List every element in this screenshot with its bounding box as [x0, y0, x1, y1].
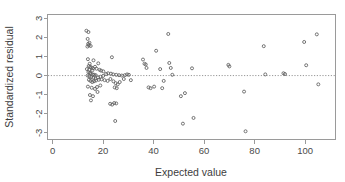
- data-point: [92, 59, 95, 62]
- data-point: [96, 86, 99, 89]
- y-tick-label: 2: [33, 35, 44, 40]
- data-point: [159, 68, 162, 71]
- y-tick-label: 0: [33, 73, 44, 78]
- data-point: [122, 78, 125, 81]
- y-axis-label: Standardized residual: [3, 26, 15, 128]
- x-tick-label: 80: [249, 145, 260, 156]
- data-point: [179, 95, 182, 98]
- data-point: [99, 84, 102, 87]
- data-point: [106, 79, 109, 82]
- data-point: [303, 40, 306, 43]
- data-point: [118, 81, 121, 84]
- data-point: [145, 66, 148, 69]
- x-tick-label: 100: [297, 145, 313, 156]
- data-point: [162, 79, 165, 82]
- data-point: [96, 90, 99, 93]
- x-axis: 020406080100: [50, 140, 313, 156]
- data-point: [129, 79, 132, 82]
- residual-plot-figure: 020406080100 -3-2-10123 Expected value S…: [0, 0, 345, 182]
- data-point: [86, 85, 89, 88]
- data-point: [141, 58, 144, 61]
- scatter-chart: 020406080100 -3-2-10123 Expected value S…: [0, 0, 345, 182]
- x-tick-label: 0: [50, 145, 55, 156]
- y-tick-label: -1: [33, 90, 44, 98]
- data-point: [155, 49, 158, 52]
- data-point: [305, 64, 308, 67]
- data-point: [315, 33, 318, 36]
- data-point: [115, 102, 118, 105]
- data-point: [114, 119, 117, 122]
- data-point: [262, 45, 265, 48]
- data-point: [89, 99, 92, 102]
- data-point: [264, 73, 267, 76]
- data-point: [109, 78, 112, 81]
- data-point: [91, 95, 94, 98]
- data-point: [244, 130, 247, 133]
- data-points-layer: [85, 29, 320, 133]
- data-point: [192, 116, 195, 119]
- data-point: [169, 66, 172, 69]
- data-point: [88, 94, 91, 97]
- x-tick-label: 20: [98, 145, 109, 156]
- data-point: [103, 79, 106, 82]
- x-axis-label: Expected value: [155, 166, 227, 178]
- data-point: [317, 83, 320, 86]
- y-tick-label: 3: [33, 16, 44, 21]
- data-point: [168, 61, 171, 64]
- data-point: [161, 87, 164, 90]
- data-point: [90, 86, 93, 89]
- data-point: [183, 92, 186, 95]
- data-point: [181, 122, 184, 125]
- data-point: [243, 90, 246, 93]
- data-point: [86, 37, 89, 40]
- data-point: [97, 62, 100, 65]
- y-tick-label: -2: [33, 110, 44, 118]
- x-tick-label: 40: [148, 145, 159, 156]
- y-tick-label: -3: [33, 129, 44, 137]
- data-point: [191, 67, 194, 70]
- data-point: [86, 58, 89, 61]
- data-point: [110, 56, 113, 59]
- data-point: [153, 85, 156, 88]
- x-tick-label: 60: [199, 145, 210, 156]
- data-point: [167, 32, 170, 35]
- y-tick-label: 1: [33, 54, 44, 59]
- y-axis: -3-2-10123: [33, 16, 47, 137]
